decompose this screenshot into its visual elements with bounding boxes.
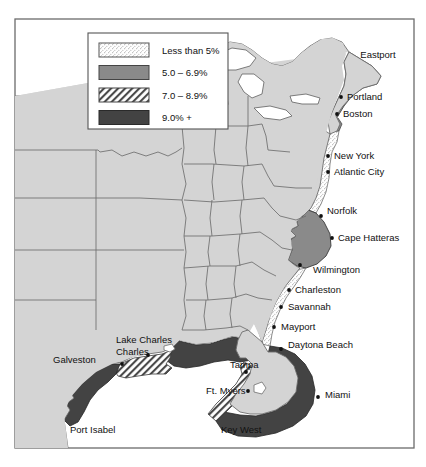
city-label-key-west: Key West	[221, 424, 262, 435]
city-label-galveston: Galveston	[53, 354, 96, 365]
city-dot-ft-myers[interactable]	[246, 389, 250, 393]
city-dot-wilmington[interactable]	[298, 263, 302, 267]
city-label-daytona-beach: Daytona Beach	[288, 339, 353, 350]
legend-label-3: 9.0% +	[162, 112, 192, 123]
legend-label-0: Less than 5%	[162, 45, 220, 56]
city-dot-new-york[interactable]	[326, 154, 330, 158]
city-label-savannah: Savannah	[288, 301, 331, 312]
map-canvas: EastportPortlandBostonNew YorkAtlantic C…	[0, 0, 426, 467]
city-label-tampa: Tampa	[230, 359, 259, 370]
city-label-charleston: Charleston	[295, 284, 341, 295]
city-dot-miami[interactable]	[316, 395, 320, 399]
city-dot-tampa[interactable]	[244, 370, 248, 374]
legend-swatch-2	[99, 88, 149, 102]
city-dot-portland[interactable]	[339, 95, 343, 99]
legend-swatch-1	[99, 66, 149, 80]
city-dot-norfolk[interactable]	[319, 214, 323, 218]
map-figure: EastportPortlandBostonNew YorkAtlantic C…	[0, 0, 426, 467]
city-label-atlantic-city: Atlantic City	[334, 166, 384, 177]
legend-swatch-3	[99, 111, 149, 125]
city-label-ft-myers: Ft. Myers	[206, 385, 246, 396]
city-label-norfolk: Norfolk	[327, 205, 357, 216]
city-label-portland: Portland	[347, 91, 382, 102]
city-dot-galveston[interactable]	[120, 362, 124, 366]
city-dot-mayport[interactable]	[272, 325, 276, 329]
legend-box[interactable]: Less than 5%5.0 – 6.9%7.0 – 8.9%9.0% +	[88, 33, 228, 129]
city-label-eastport: Eastport	[360, 49, 396, 60]
city-label-miami: Miami	[325, 389, 350, 400]
city-label-cape-hatteras: Cape Hatteras	[338, 232, 400, 243]
city-dot-atlantic-city[interactable]	[326, 170, 330, 174]
lake-charles-second-line: Charles	[116, 346, 149, 357]
legend-label-1: 5.0 – 6.9%	[162, 67, 208, 78]
legend-swatch-0	[99, 43, 149, 57]
city-dot-savannah[interactable]	[279, 305, 283, 309]
city-label-port-isabel: Port Isabel	[70, 424, 115, 435]
city-label-new-york: New York	[334, 150, 374, 161]
city-label-wilmington: Wilmington	[313, 264, 360, 275]
city-dot-cape-hatteras[interactable]	[330, 236, 334, 240]
city-label-boston: Boston	[343, 108, 373, 119]
city-dot-daytona-beach[interactable]	[279, 347, 283, 351]
city-label-lake-charles: Lake Charles	[116, 334, 172, 345]
city-label-mayport: Mayport	[281, 321, 316, 332]
city-dot-boston[interactable]	[335, 112, 339, 116]
city-dot-charleston[interactable]	[287, 288, 291, 292]
legend-label-2: 7.0 – 8.9%	[162, 90, 208, 101]
